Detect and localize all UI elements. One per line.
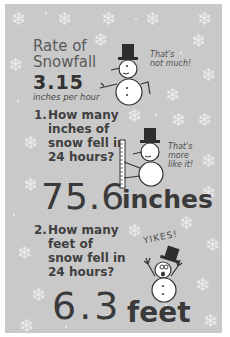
snowflake-icon: ❄ xyxy=(195,276,210,294)
title-line1: Rate of xyxy=(33,38,96,54)
question-1: 1.How many inches of snow fell in 24 hou… xyxy=(34,108,126,164)
answer-2-unit: feet xyxy=(127,296,191,329)
snowflake-icon: ❄ xyxy=(17,244,32,262)
snowflake-icon: ❄ xyxy=(31,286,46,304)
snowflake-icon: ❄ xyxy=(101,10,116,28)
snowman3-exclaim: YIKES! xyxy=(142,228,178,245)
infographic-panel: ❄ ❄ ❄ ❄ ❄ ❄ ❄ ❄ ❄ ❄ ❄ ❄ ❄ ❄ ❄ ❄ ❄ ❄ ❄ ❄ … xyxy=(5,4,222,333)
answer-2-value: 6.3 xyxy=(52,284,121,328)
snowflake-icon: ❄ xyxy=(8,56,23,74)
snowflake-icon: ❄ xyxy=(179,214,194,232)
top-hat-icon xyxy=(140,128,160,143)
answer-1-unit: inches xyxy=(122,185,213,214)
snowflake-icon: ❄ xyxy=(23,176,38,194)
answer-1-value: 75.6 xyxy=(41,176,125,217)
question-2: 2.How many feet of snow fell in 24 hours… xyxy=(34,223,126,279)
rate-unit: inches per hour xyxy=(33,92,99,102)
snowman1-speech: That's not much! xyxy=(150,50,191,68)
snowflake-icon: ❄ xyxy=(205,236,220,254)
snowflake-icon: ❄ xyxy=(171,111,186,129)
top-hat-icon xyxy=(118,44,138,60)
snowflake-icon: ❄ xyxy=(145,10,160,28)
snowflake-icon: ❄ xyxy=(57,10,72,28)
snowflake-icon: ❄ xyxy=(191,32,206,50)
snowflake-icon: ❄ xyxy=(203,312,218,330)
title: Rate of Snowfall xyxy=(33,38,96,70)
snowflake-icon: ❄ xyxy=(11,10,26,28)
snowflake-icon: ❄ xyxy=(201,66,216,84)
snowflake-icon: ❄ xyxy=(201,152,216,170)
rate-value: 3.15 xyxy=(33,71,84,93)
snowflake-icon: ❄ xyxy=(19,317,34,333)
snowflake-icon: ❄ xyxy=(197,10,212,28)
snowman2-speech: That's more like it! xyxy=(168,142,193,169)
snowflake-icon: ❄ xyxy=(127,222,142,240)
snowflake-icon: ❄ xyxy=(165,86,180,104)
snowflake-icon: ❄ xyxy=(197,111,212,129)
snowman-icon xyxy=(118,126,168,192)
title-line2: Snowfall xyxy=(33,54,96,70)
